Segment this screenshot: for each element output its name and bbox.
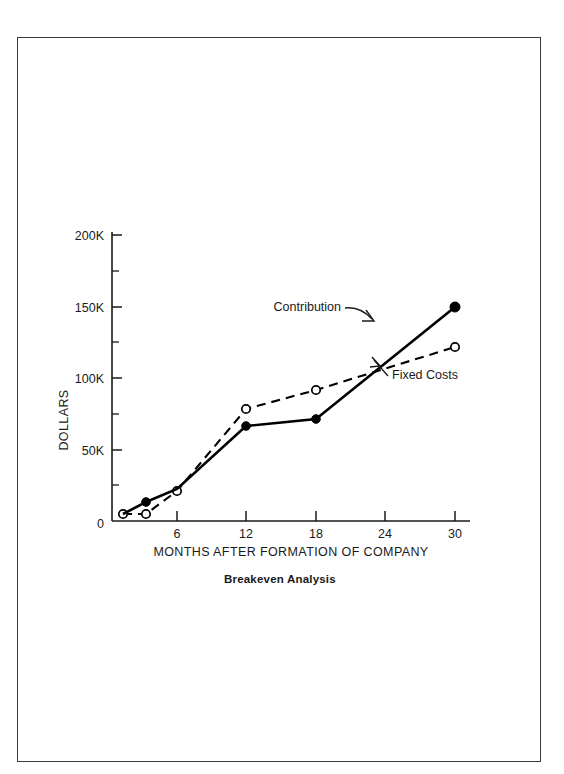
y-tick-label-50k: 50K bbox=[82, 444, 105, 458]
contribution-point bbox=[312, 415, 321, 424]
breakeven-chart: 200K 150K 100K 50K 0 DOLLARS 6 12 18 24 … bbox=[0, 0, 564, 774]
x-tick-label-18: 18 bbox=[309, 527, 323, 541]
figure-area: 200K 150K 100K 50K 0 DOLLARS 6 12 18 24 … bbox=[0, 0, 564, 774]
annotation-fixed-costs: Fixed Costs bbox=[370, 357, 458, 382]
figure-caption: Breakeven Analysis bbox=[224, 573, 336, 585]
x-axis-tick-labels: 6 12 18 24 30 bbox=[174, 527, 462, 541]
fixed-costs-point bbox=[312, 386, 320, 394]
x-tick-label-6: 6 bbox=[174, 527, 181, 541]
x-axis-ticks bbox=[177, 511, 455, 521]
fixed-costs-point bbox=[242, 405, 250, 413]
y-tick-label-100k: 100K bbox=[75, 372, 105, 386]
annotation-contribution-label: Contribution bbox=[274, 300, 341, 314]
contribution-point bbox=[242, 422, 251, 431]
x-tick-label-12: 12 bbox=[239, 527, 253, 541]
y-tick-label-150k: 150K bbox=[75, 301, 105, 315]
fixed-costs-point bbox=[142, 510, 150, 518]
y-axis-tick-labels: 200K 150K 100K 50K 0 bbox=[75, 229, 105, 531]
x-axis-title: MONTHS AFTER FORMATION OF COMPANY bbox=[153, 545, 428, 559]
y-tick-label-0: 0 bbox=[97, 517, 104, 531]
annotation-fixed-costs-label: Fixed Costs bbox=[392, 368, 458, 382]
x-tick-label-30: 30 bbox=[448, 527, 462, 541]
fixed-costs-point bbox=[451, 343, 459, 351]
x-tick-label-24: 24 bbox=[378, 527, 392, 541]
contribution-point bbox=[142, 498, 151, 507]
y-tick-label-200k: 200K bbox=[75, 229, 105, 243]
contribution-point bbox=[450, 302, 460, 312]
annotation-contribution: Contribution bbox=[274, 300, 374, 321]
y-axis-ticks bbox=[112, 235, 122, 485]
series-contribution bbox=[123, 302, 460, 514]
contribution-line bbox=[123, 307, 455, 514]
y-axis-title: DOLLARS bbox=[57, 389, 71, 450]
